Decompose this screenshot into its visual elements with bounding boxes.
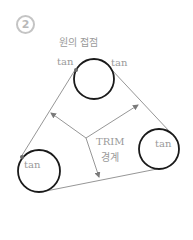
- leader-arrow-left: [51, 113, 86, 138]
- trim-label: TRIM: [96, 137, 124, 147]
- boundary-label: 경계: [101, 153, 119, 163]
- title-label: 원의 접점: [59, 38, 98, 48]
- tan-label-top-left: tan: [57, 57, 73, 67]
- leader-arrow-right: [86, 105, 138, 138]
- tangent-line-right: [111, 69, 170, 132]
- tan-label-bottom-right: tan: [155, 139, 171, 149]
- tangent-point-top: [74, 68, 78, 72]
- tangent-line-left: [21, 70, 75, 157]
- circle-top: [74, 59, 114, 99]
- circle-bottom-left: [18, 150, 60, 192]
- tan-label-bottom-left: tan: [24, 160, 40, 170]
- circle-bottom-right: [139, 129, 179, 169]
- tan-label-top-right: tan: [111, 58, 127, 68]
